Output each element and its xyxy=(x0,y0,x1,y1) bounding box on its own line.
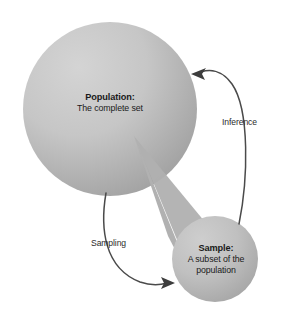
population-label: Population: The complete set xyxy=(50,92,170,114)
population-description-line-1: The complete set xyxy=(50,103,170,114)
statistics-population-sample-diagram: Population: The complete set Sample: A s… xyxy=(0,0,281,320)
inference-connector xyxy=(201,71,246,224)
sample-title: Sample: xyxy=(170,243,262,254)
sampling-arrowhead-icon xyxy=(161,277,175,289)
sample-description-line-2: population xyxy=(170,265,262,276)
sampling-connector-label: Sampling xyxy=(91,238,126,248)
sample-description-line-1: A subset of the xyxy=(170,254,262,265)
sample-label: Sample: A subset of the population xyxy=(170,243,262,276)
inference-arrowhead-icon xyxy=(191,68,206,80)
population-title: Population: xyxy=(50,92,170,103)
inference-connector-label: Inference xyxy=(222,117,257,127)
